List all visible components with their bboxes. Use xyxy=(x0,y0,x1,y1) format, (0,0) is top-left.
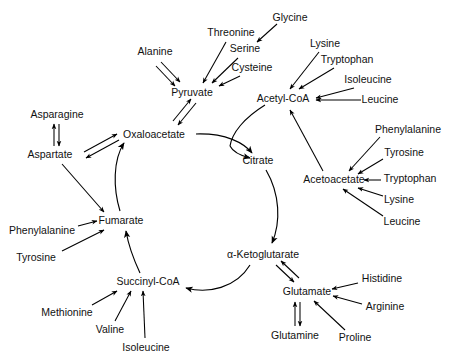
label-tyrosine-acetoacetate: Tyrosine xyxy=(384,146,424,158)
edge-ketoglutarate-glutamate-a xyxy=(276,265,294,282)
node-glutamate: Glutamate xyxy=(283,285,332,297)
label-tryptophan-acetyl: Tryptophan xyxy=(321,53,374,65)
label-leucine-acetoacetate: Leucine xyxy=(384,215,421,227)
label-lysine-acetyl: Lysine xyxy=(310,37,340,49)
edge-lysine-acetoacetate xyxy=(358,188,383,196)
edge-isoleucine-acetylcoa xyxy=(316,88,354,98)
edge-histidine-glutamate xyxy=(332,283,358,289)
amino-acid-labels: Alanine Threonine Serine Cysteine Glycin… xyxy=(9,11,441,353)
edge-phenylalanine-acetoacetate xyxy=(349,137,380,171)
label-proline: Proline xyxy=(339,331,372,343)
label-isoleucine-succinyl: Isoleucine xyxy=(122,341,169,353)
edge-aspartate-oxaloacetate-a xyxy=(84,134,117,152)
arc-succinylcoa-fumarate xyxy=(126,231,140,273)
node-acetoacetate: Acetoacetate xyxy=(303,173,364,185)
label-methionine: Methionine xyxy=(41,306,93,318)
node-fumarate: Fumarate xyxy=(99,214,144,226)
label-arginine: Arginine xyxy=(366,300,405,312)
arc-oxaloacetate-citrate xyxy=(196,134,252,153)
label-phenylalanine-fumarate: Phenylalanine xyxy=(9,224,75,236)
edge-proline-glutamate xyxy=(314,301,345,330)
edge-pyruvate-oxaloacetate-a xyxy=(178,103,196,125)
edge-alanine-pyruvate-a xyxy=(161,62,180,82)
label-asparagine: Asparagine xyxy=(30,108,83,120)
label-histidine: Histidine xyxy=(362,272,402,284)
edge-phenylalanine-fumarate xyxy=(78,221,97,226)
pyruvate-input-edges xyxy=(156,24,277,125)
label-leucine-acetyl: Leucine xyxy=(362,93,399,105)
label-glutamine: Glutamine xyxy=(271,329,319,341)
edge-pyruvate-oxaloacetate-b xyxy=(173,99,191,121)
edge-oxaloacetate-aspartate-b xyxy=(86,140,119,158)
label-threonine: Threonine xyxy=(207,26,254,38)
label-tyrosine-fumarate: Tyrosine xyxy=(16,251,56,263)
edge-aspartate-fumarate xyxy=(62,164,104,212)
label-cysteine: Cysteine xyxy=(232,61,273,73)
node-acetyl-coa: Acetyl-CoA xyxy=(257,92,310,104)
aspartate-edges xyxy=(54,124,119,212)
node-succinyl-coa: Succinyl-CoA xyxy=(116,275,179,287)
label-aspartate: Aspartate xyxy=(28,148,73,160)
edge-threonine-pyruvate xyxy=(203,42,226,83)
acetylcoa-input-edges xyxy=(290,52,361,171)
metabolic-pathway-diagram: Pyruvate Acetyl-CoA Oxaloacetate Citrate… xyxy=(0,0,459,363)
edge-acetoacetate-acetylcoa xyxy=(290,110,323,171)
arc-citrate-ketoglutarate xyxy=(266,170,278,243)
edge-leucine-acetoacetate xyxy=(343,189,383,216)
arc-fumarate-oxaloacetate xyxy=(115,143,124,211)
arc-ketoglutarate-succinylcoa xyxy=(186,265,250,290)
label-lysine-acetoacetate: Lysine xyxy=(384,193,414,205)
edge-lysine-acetylcoa xyxy=(290,52,319,89)
edge-arginine-glutamate xyxy=(333,296,362,304)
edge-glutamate-ketoglutarate-b xyxy=(281,261,299,278)
node-pyruvate: Pyruvate xyxy=(171,86,213,98)
label-tryptophan-acetoacetate: Tryptophan xyxy=(384,172,437,184)
label-serine: Serine xyxy=(230,42,261,54)
node-citrate: Citrate xyxy=(243,154,274,166)
edge-tyrosine-acetoacetate xyxy=(358,159,383,174)
label-valine: Valine xyxy=(96,323,125,335)
edge-valine-succinylcoa xyxy=(115,291,131,321)
node-oxaloacetate: Oxaloacetate xyxy=(123,128,185,140)
edge-cysteine-pyruvate xyxy=(219,76,240,86)
edge-glycine-serine xyxy=(257,24,277,42)
edge-methionine-succinylcoa xyxy=(92,291,117,305)
label-isoleucine-acetyl: Isoleucine xyxy=(344,73,391,85)
label-phenylalanine-acetoacetate: Phenylalanine xyxy=(375,123,441,135)
cycle-node-labels: Pyruvate Acetyl-CoA Oxaloacetate Citrate… xyxy=(99,86,365,297)
node-alpha-ketoglutarate: α-Ketoglutarate xyxy=(227,248,299,260)
label-alanine: Alanine xyxy=(137,45,172,57)
arc-acetylcoa-citrate xyxy=(230,105,265,146)
edge-isoleucine-succinylcoa xyxy=(143,291,145,338)
edge-alanine-pyruvate-b xyxy=(156,66,175,86)
label-glycine: Glycine xyxy=(272,11,307,23)
diagram-canvas: Pyruvate Acetyl-CoA Oxaloacetate Citrate… xyxy=(0,0,459,363)
